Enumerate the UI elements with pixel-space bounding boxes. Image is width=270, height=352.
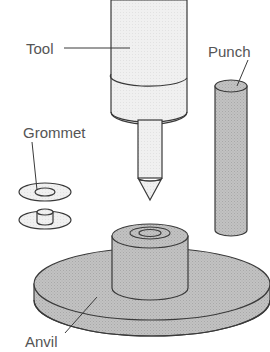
anvil-label: Anvil	[25, 334, 58, 349]
grommet-label: Grommet	[23, 125, 86, 140]
grommet-leader	[32, 142, 37, 190]
punch	[215, 80, 247, 236]
anvil	[34, 224, 270, 336]
anvil-recess-inner	[139, 230, 161, 237]
punch-label: Punch	[208, 44, 251, 59]
tool-body	[111, 0, 187, 124]
tool-shaft	[138, 120, 162, 178]
grommet-eyelet	[19, 209, 71, 229]
tool	[110, 0, 187, 200]
tool-label: Tool	[26, 41, 54, 56]
grommet-washer	[19, 183, 71, 201]
